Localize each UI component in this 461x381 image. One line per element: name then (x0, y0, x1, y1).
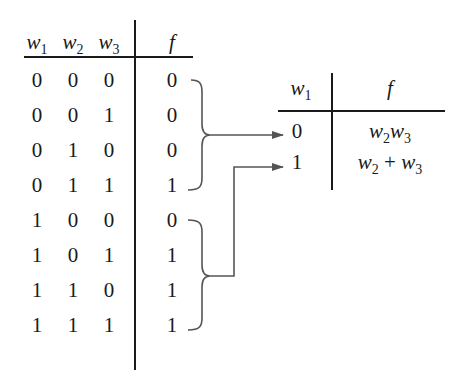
diagram-lines (0, 0, 461, 381)
brace-upper (188, 80, 210, 190)
brace-lower (188, 220, 210, 330)
arrow-to-row-1 (210, 167, 283, 276)
